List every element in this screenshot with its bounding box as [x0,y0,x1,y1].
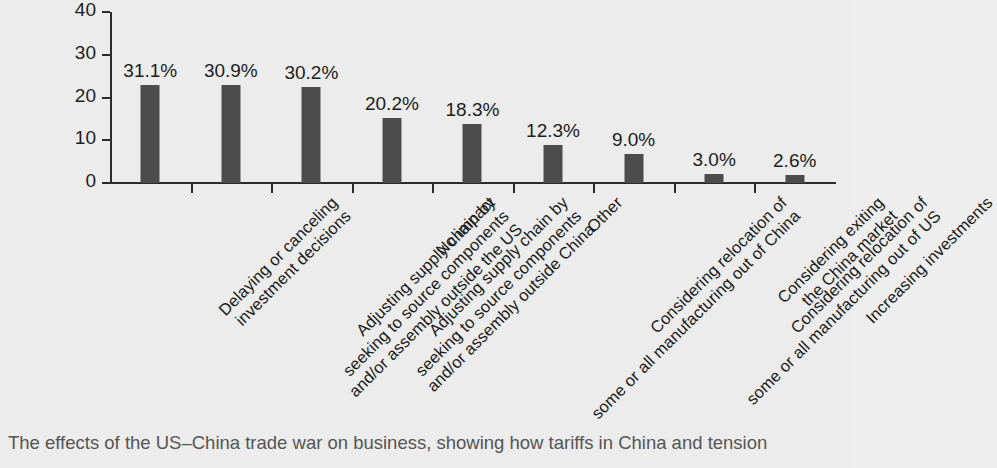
bar-column: 12.3% [513,12,594,183]
bar-value-label: 3.0% [692,150,735,170]
y-tick-label: 40 [75,0,96,21]
bar-column: 2.6% [754,12,835,183]
bar-value-label: 12.3% [526,121,580,141]
bar [382,118,401,183]
bar-column: 9.0% [593,12,674,183]
y-tick-mark [102,182,110,184]
x-tick [754,184,756,193]
bar [624,154,643,183]
bar-value-label: 20.2% [365,94,419,114]
bar [302,87,321,183]
bar-column: 30.2% [271,12,352,183]
bar-column: 20.2% [352,12,433,183]
x-tick [593,184,595,193]
y-tick-label: 10 [75,127,96,149]
bar-value-label: 31.1% [123,61,177,81]
bar-column: 18.3% [432,12,513,183]
bar [544,145,563,183]
bar-value-label: 30.9% [204,61,258,81]
bar-column: 31.1% [110,12,191,183]
y-tick-mark [102,139,110,141]
x-tick [352,184,354,193]
bar-value-label: 9.0% [612,130,655,150]
category-label: Other [583,193,626,236]
bar-value-label: 30.2% [284,63,338,83]
bar [221,85,240,183]
x-tick [513,184,515,193]
y-tick: 30 [102,54,110,56]
plot-area: 31.1%30.9%30.2%20.2%18.3%12.3%9.0%3.0%2.… [110,12,835,183]
y-tick-label: 20 [75,85,96,107]
category-label: Delaying or canceling investment decisio… [215,193,355,333]
x-tick [674,184,676,193]
bar [463,124,482,183]
x-tick [432,184,434,193]
figure-caption: The effects of the US–China trade war on… [8,432,888,454]
y-tick: 40 [102,11,110,13]
y-tick: 20 [102,97,110,99]
y-tick-label: 0 [85,170,96,192]
x-tick [191,184,193,193]
bar-column: 30.9% [191,12,272,183]
y-tick-mark [102,97,110,99]
bar [785,175,804,183]
bar-value-label: 18.3% [446,100,500,120]
y-tick-label: 30 [75,42,96,64]
bar [705,174,724,183]
bar-column: 3.0% [674,12,755,183]
y-tick-mark [102,54,110,56]
y-tick: 0 [102,182,110,184]
bar [141,85,160,183]
y-tick-mark [102,11,110,13]
y-tick: 10 [102,139,110,141]
bar-value-label: 2.6% [773,151,816,171]
x-tick [271,184,273,193]
